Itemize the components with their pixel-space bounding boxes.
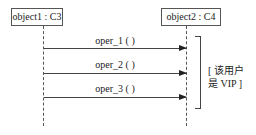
message-arrow-2 <box>44 73 186 74</box>
arrowhead-icon <box>179 94 187 100</box>
arrowhead-icon <box>179 45 187 51</box>
message-label-2: oper_2 ( ) <box>44 59 186 70</box>
object1-box: object1 : C3 <box>11 8 63 26</box>
message-label-3: oper_3 ( ) <box>44 83 186 94</box>
message-arrow-3 <box>44 97 186 98</box>
message-arrow-1 <box>44 48 186 49</box>
guard-line-1: [ 该用户 <box>208 64 244 77</box>
message-label-1: oper_1 ( ) <box>44 35 186 46</box>
guard-line-2: 是 VIP ] <box>208 77 244 90</box>
arrowhead-icon <box>179 70 187 76</box>
object2-box: object2 : C4 <box>161 8 221 26</box>
guard-bracket <box>195 36 201 109</box>
guard-condition: [ 该用户 是 VIP ] <box>208 64 244 90</box>
object2-lifeline <box>186 26 187 126</box>
